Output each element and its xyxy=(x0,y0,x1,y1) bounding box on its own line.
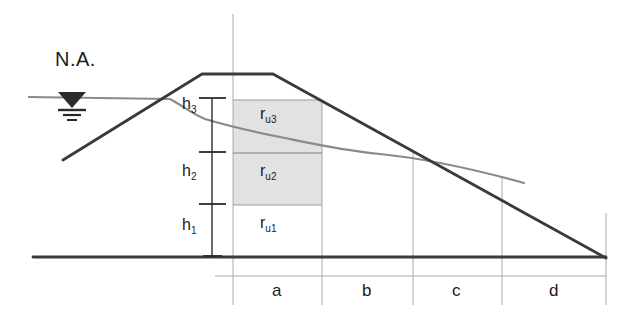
segment-label-d: d xyxy=(549,281,558,301)
segment-label-b: b xyxy=(362,281,371,301)
segment-label-c: c xyxy=(452,281,461,301)
dam-cross-section-diagram: N.A. h3 h2 h1 ru3 ru2 ru1 a b c d xyxy=(0,0,644,319)
height-label-h2-sub: 2 xyxy=(191,171,197,182)
height-label-h1-text: h xyxy=(182,216,191,233)
phreatic-seepage-line xyxy=(170,99,524,183)
height-label-h3-sub: 3 xyxy=(191,104,197,115)
zone-label-ru3: ru3 xyxy=(260,105,276,125)
height-label-h2-text: h xyxy=(182,162,191,179)
height-label-h1: h1 xyxy=(182,216,196,236)
height-label-h1-sub: 1 xyxy=(191,225,197,236)
segment-label-a: a xyxy=(272,281,281,301)
water-surface-line xyxy=(28,97,170,99)
zone-label-ru1: ru1 xyxy=(260,214,276,234)
height-label-h3-text: h xyxy=(182,95,191,112)
diagram-canvas xyxy=(0,0,644,319)
height-label-h3: h3 xyxy=(182,95,196,115)
zone-label-ru3-sub: u3 xyxy=(265,114,276,125)
zone-label-ru1-sub: u1 xyxy=(265,223,276,234)
dam-outline xyxy=(63,74,606,258)
water-level-triangle-icon xyxy=(58,92,86,108)
zone-label-ru2-sub: u2 xyxy=(265,171,276,182)
water-level-label: N.A. xyxy=(55,48,96,71)
zone-label-ru2: ru2 xyxy=(260,162,276,182)
height-label-h2: h2 xyxy=(182,162,196,182)
